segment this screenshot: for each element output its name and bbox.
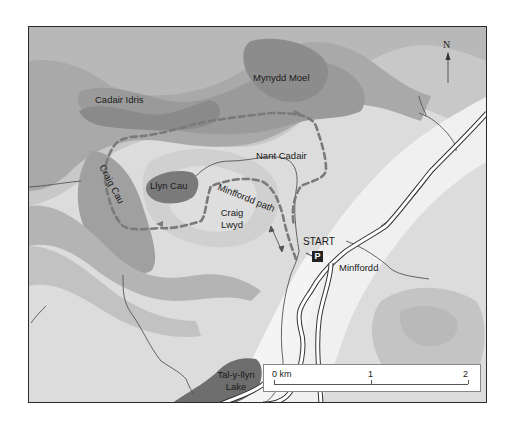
scale-tick-2 <box>468 380 469 384</box>
scale-tick-1 <box>371 380 372 384</box>
label-lake-line1: Tal-y-llyn <box>211 370 261 380</box>
scale-label-2: 2 <box>463 369 468 379</box>
north-arrow-icon <box>441 39 455 89</box>
scale-bar: 0 km 1 2 <box>263 364 481 392</box>
scale-label-1: 1 <box>368 369 373 379</box>
label-lake-line2: Lake <box>211 382 261 392</box>
parking-icon: P <box>312 251 323 262</box>
scale-tick-0 <box>274 380 275 384</box>
map-frame: Mynydd Moel Cadair Idris Nant Cadair Lly… <box>28 26 487 403</box>
label-llyn-cau: Llyn Cau <box>150 181 188 191</box>
label-craig-lwyd-line2: Lwyd <box>217 220 247 230</box>
terrain-map <box>29 27 487 403</box>
label-start: START <box>303 237 335 247</box>
label-minffordd: Minffordd <box>339 263 378 273</box>
scale-line <box>274 384 468 385</box>
label-cadair-idris: Cadair Idris <box>95 95 144 105</box>
label-mynydd-moel: Mynydd Moel <box>253 73 310 83</box>
north-arrow: N <box>441 39 455 89</box>
label-craig-lwyd-line1: Craig <box>217 208 247 218</box>
label-nant-cadair: Nant Cadair <box>256 151 307 161</box>
scale-label-0: 0 km <box>272 369 292 379</box>
